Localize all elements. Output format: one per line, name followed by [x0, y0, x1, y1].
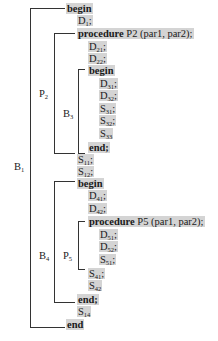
- line-begin-B4: begin: [77, 178, 104, 189]
- line-procedure-P5: procedure P5 (par1, par2);: [88, 216, 205, 227]
- line-end-B3: end;: [88, 142, 110, 153]
- line-S41: S41;: [88, 268, 105, 279]
- line-D32: D32;: [99, 90, 118, 101]
- line-D41: D41;: [88, 190, 107, 201]
- label-B1: B1: [14, 161, 24, 172]
- line-S12: S12;: [77, 166, 94, 177]
- line-S31: S31;: [99, 103, 116, 114]
- line-S42: S42: [88, 280, 102, 291]
- line-S11: S11;: [77, 154, 94, 165]
- line-D21: D21;: [88, 41, 107, 52]
- line-procedure-P2: procedure P2 (par1, par2);: [77, 28, 194, 39]
- line-end-B1: end: [66, 319, 84, 330]
- line-begin-B3: begin: [88, 65, 115, 76]
- line-S32: S32;: [99, 115, 116, 126]
- label-B4: B4: [39, 250, 49, 261]
- line-D22: D22;: [88, 53, 107, 64]
- label-P5: P5: [63, 250, 72, 261]
- line-D42: D42;: [88, 203, 107, 214]
- line-D31: D31;: [99, 78, 118, 89]
- bracket-B4: [54, 181, 75, 303]
- line-D51: D51;: [99, 229, 118, 240]
- line-D52: D52;: [99, 241, 118, 252]
- label-P2: P2: [39, 88, 48, 99]
- line-D1: D1;: [77, 15, 93, 26]
- line-begin-B1: begin: [66, 3, 93, 14]
- line-S33: S33: [99, 128, 113, 139]
- label-B3: B3: [63, 108, 73, 119]
- bracket-P5: [78, 221, 85, 270]
- line-end-B4: end;: [77, 294, 99, 305]
- bracket-B3: [78, 69, 85, 154]
- line-S51: S51;: [99, 254, 116, 265]
- bracket-P2: [54, 33, 75, 154]
- line-S14: S14: [77, 306, 91, 317]
